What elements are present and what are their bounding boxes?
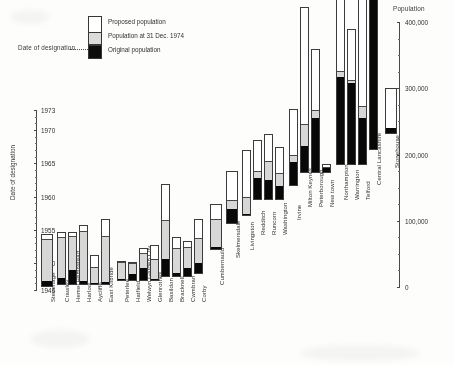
- bar-label: Milton Keynes: [307, 168, 313, 207]
- bar-aycliffe: [90, 255, 99, 285]
- bar-segment-original: [323, 168, 330, 172]
- bar-segment-original: [359, 118, 366, 164]
- bar-label: Central Lancashire: [376, 133, 382, 185]
- bar-warrington: [347, 29, 356, 165]
- plot-area: StevenageCrawleyHemel HempsteadHarlowAyc…: [0, 0, 454, 365]
- bar-segment-original: [370, 0, 377, 149]
- bar-label: Washington: [282, 203, 288, 235]
- bar-basildon: [161, 184, 170, 277]
- bar-label: Redditch: [260, 211, 266, 235]
- bar-segment-original: [337, 77, 344, 164]
- bar-label: Northampton: [343, 164, 349, 200]
- bar-label: Basildon: [168, 278, 174, 302]
- bar-corby: [194, 219, 203, 274]
- bar-hatfield: [128, 262, 137, 281]
- bar-segment-original: [162, 259, 169, 276]
- bar-segment-current: [80, 231, 87, 284]
- bar-segment-original: [265, 180, 272, 199]
- bar-cwmbran: [183, 241, 192, 277]
- bar-label: Cwmbran: [190, 276, 196, 302]
- bar-segment-original: [254, 178, 261, 199]
- bar-segment-original: [129, 274, 136, 280]
- bar-livingston: [242, 150, 251, 216]
- bar-cumbernauld: [210, 204, 222, 250]
- bar-milton-keynes: [300, 7, 309, 173]
- bar-label: Peterborough: [318, 169, 324, 207]
- bar-redditch: [253, 140, 262, 200]
- bar-skelmersdale: [226, 171, 238, 224]
- bar-segment-original: [243, 214, 250, 215]
- bar-label: Corby: [201, 285, 207, 302]
- bar-label: Stonehouse: [394, 135, 400, 168]
- bar-label: Stevenage: [50, 272, 56, 302]
- bar-label: Hatfield: [135, 281, 141, 302]
- bar-segment-current: [243, 197, 250, 215]
- bar-segment-original: [312, 118, 319, 172]
- bar-stonehouse: [385, 88, 397, 134]
- bar-label: Warrington: [354, 170, 360, 200]
- bar-runcorn: [264, 134, 273, 200]
- bar-harlow: [79, 225, 88, 285]
- bar-segment-current: [118, 262, 125, 280]
- bar-central-lancashire: [369, 0, 378, 150]
- bar-label: Bracknell: [179, 276, 185, 302]
- bar-irvine: [289, 109, 298, 186]
- bar-label: Irvine: [296, 205, 302, 220]
- bar-segment-original: [386, 128, 396, 133]
- bar-telford: [358, 0, 367, 165]
- bar-label: Livingston: [249, 222, 255, 250]
- bar-segment-original: [195, 263, 202, 273]
- bar-bracknell: [172, 237, 181, 277]
- bar-segment-current: [211, 219, 221, 249]
- bar-peterborough: [311, 49, 320, 173]
- bar-label: Aycliffe: [97, 282, 103, 302]
- bar-northampton: [336, 0, 345, 165]
- bar-label: Runcorn: [271, 212, 277, 235]
- bar-label: Skelmersdale: [235, 220, 241, 258]
- bar-label: Harlow: [86, 283, 92, 302]
- bar-new-town: [322, 164, 331, 173]
- bar-label: East Kilbride: [108, 267, 114, 302]
- bar-segment-original: [290, 162, 297, 185]
- bar-segment-current: [58, 237, 65, 284]
- bar-label: Cumbernauld: [219, 248, 225, 285]
- chart-figure: Proposed population Population at 31 Dec…: [0, 0, 454, 365]
- bar-label: New town: [329, 180, 335, 207]
- bar-crawley: [57, 232, 66, 285]
- bar-washington: [275, 147, 284, 200]
- bar-segment-original: [276, 186, 283, 199]
- bar-label: Peterlee: [124, 279, 130, 302]
- bar-label: Telford: [365, 181, 371, 200]
- bar-segment-original: [348, 83, 355, 164]
